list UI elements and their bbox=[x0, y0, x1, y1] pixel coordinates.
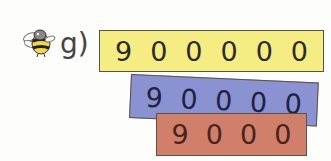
digit: 0 bbox=[266, 119, 300, 150]
digit: 0 bbox=[247, 36, 282, 67]
exercise-label: g) bbox=[60, 28, 89, 60]
digit: 0 bbox=[176, 36, 211, 67]
digit: 0 bbox=[232, 119, 266, 150]
digit: 9 bbox=[136, 81, 172, 114]
bee-icon bbox=[22, 27, 56, 57]
digit: 0 bbox=[141, 36, 176, 67]
yellow-strip: 9 0 0 0 0 0 bbox=[99, 30, 324, 72]
red-strip: 9 0 0 0 bbox=[156, 113, 307, 156]
digit: 0 bbox=[197, 119, 231, 150]
digit: 0 bbox=[212, 36, 247, 67]
digit: 9 bbox=[163, 119, 197, 150]
digit: 0 bbox=[171, 82, 207, 115]
digit: 9 bbox=[106, 36, 141, 67]
digit: 0 bbox=[206, 84, 242, 117]
digit: 0 bbox=[282, 36, 317, 67]
